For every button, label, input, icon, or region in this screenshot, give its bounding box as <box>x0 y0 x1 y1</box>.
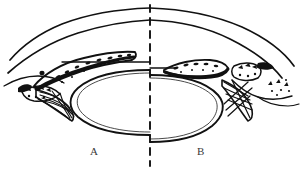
iris-root-dot-left <box>39 71 44 75</box>
panel-label-a: A <box>90 145 98 157</box>
panel-b-group <box>150 8 299 142</box>
lens-left-half <box>71 70 151 135</box>
lens-right-half <box>150 75 223 142</box>
scleral-spur-left <box>18 84 32 92</box>
eye-accommodation-figure: A B <box>0 0 300 170</box>
outer-sclera-arc-right <box>150 8 294 66</box>
panel-label-b: B <box>197 145 205 157</box>
zonular-fibers-left <box>38 91 74 120</box>
eye-diagram-svg <box>0 0 300 170</box>
ciliary-process-marks-right <box>238 63 257 77</box>
panel-a-group <box>4 8 150 135</box>
tissue-stipple-right <box>268 79 290 96</box>
scleral-spur-right <box>256 62 274 70</box>
cornea-arc-left <box>8 20 150 73</box>
